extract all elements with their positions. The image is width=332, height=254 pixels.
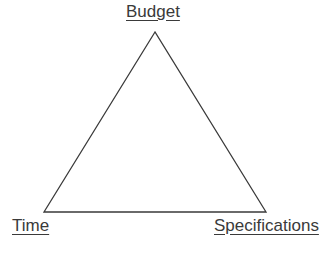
label-time: Time bbox=[12, 216, 49, 236]
label-specifications: Specifications bbox=[214, 216, 319, 236]
triangle-shape bbox=[44, 32, 266, 212]
label-budget: Budget bbox=[126, 2, 180, 22]
